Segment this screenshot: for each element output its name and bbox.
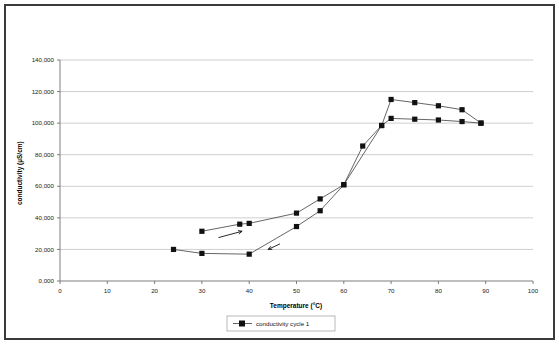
data-point-marker: [360, 143, 365, 148]
legend-label: conductivity cycle 1: [256, 320, 310, 327]
x-tick-label: 0: [58, 287, 62, 294]
data-point-marker: [436, 103, 441, 108]
data-point-marker: [412, 117, 417, 122]
y-tick-label: 120,000: [32, 88, 55, 95]
x-tick-label: 40: [246, 287, 253, 294]
x-axis-ticks: 0102030405060708090100: [58, 281, 538, 294]
data-point-marker: [199, 229, 204, 234]
y-tick-label: 140,000: [32, 56, 55, 63]
chart-area: 0,00020,00040,00060,00080,000100,000120,…: [0, 0, 559, 344]
legend-marker-sample: [239, 321, 245, 327]
lower-branch-direction-arrow: [268, 244, 280, 250]
data-point-marker: [459, 119, 464, 124]
y-axis-ticks: 0,00020,00040,00060,00080,000100,000120,…: [32, 56, 60, 284]
direction-arrows: [218, 231, 279, 250]
data-point-marker: [389, 97, 394, 102]
data-point-marker: [459, 107, 464, 112]
y-tick-label: 20,000: [35, 246, 54, 253]
series-markers: [171, 97, 484, 257]
data-point-marker: [379, 123, 384, 128]
data-point-marker: [318, 196, 323, 201]
data-point-marker: [294, 211, 299, 216]
upper-branch-direction-arrow: [218, 231, 242, 237]
y-tick-label: 100,000: [32, 119, 55, 126]
x-tick-label: 100: [528, 287, 539, 294]
y-tick-label: 80,000: [35, 151, 54, 158]
data-point-marker: [412, 100, 417, 105]
screenshot-root: 0,00020,00040,00060,00080,000100,000120,…: [0, 0, 559, 344]
data-point-marker: [318, 208, 323, 213]
x-tick-label: 90: [482, 287, 489, 294]
y-tick-label: 0,000: [39, 277, 55, 284]
y-axis-title: conductivity (µS/cm): [16, 141, 24, 205]
upper-branch-direction-arrow-head: [238, 231, 242, 232]
data-point-marker: [294, 224, 299, 229]
x-tick-label: 10: [104, 287, 111, 294]
x-axis-title: Temperature (°C): [270, 302, 322, 310]
x-tick-label: 30: [198, 287, 205, 294]
series-lines: [174, 99, 481, 254]
chart-svg: 0,00020,00040,00060,00080,000100,000120,…: [0, 0, 559, 344]
x-tick-label: 20: [151, 287, 158, 294]
data-point-marker: [247, 221, 252, 226]
data-point-marker: [199, 251, 204, 256]
data-point-marker: [171, 247, 176, 252]
data-point-marker: [247, 252, 252, 257]
x-tick-label: 80: [435, 287, 442, 294]
data-point-marker: [389, 116, 394, 121]
data-point-marker: [436, 117, 441, 122]
x-tick-label: 50: [293, 287, 300, 294]
gridlines: [60, 60, 533, 249]
x-tick-label: 70: [388, 287, 395, 294]
chart-legend: conductivity cycle 1: [227, 316, 335, 331]
data-point-marker: [478, 121, 483, 126]
data-point-marker: [237, 222, 242, 227]
data-point-marker: [341, 182, 346, 187]
y-tick-label: 40,000: [35, 214, 54, 221]
y-tick-label: 60,000: [35, 182, 54, 189]
x-tick-label: 60: [340, 287, 347, 294]
